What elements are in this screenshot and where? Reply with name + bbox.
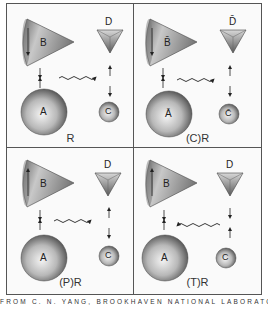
label-c: C [105, 250, 112, 260]
triangle-d-bar [220, 30, 246, 53]
cone-b [22, 19, 74, 66]
cone-b [22, 160, 74, 207]
label-b-bar: B̄ [164, 37, 171, 48]
label-c: C [105, 106, 112, 116]
cone-b-bar [145, 19, 197, 66]
label-c-bar: C̄ [225, 108, 232, 118]
wavy-arrow [59, 77, 95, 80]
figure-caption: FROM C. N. YANG, BROOKHAVEN NATIONAL LAB… [0, 298, 268, 305]
label-b: B [40, 37, 47, 48]
label-d: D [104, 159, 111, 170]
panel-pr: B D A C (P)R [7, 148, 134, 292]
panel-tr: B D A C (T)R [134, 148, 261, 292]
label-d: D [226, 159, 233, 170]
wavy-arrow [178, 224, 220, 227]
panel-cr: B̄ D̄ Ā C̄ (C)R [134, 4, 261, 148]
label-d-bar: D̄ [229, 16, 236, 27]
label-c: C [222, 252, 229, 262]
panel-label: (T)R [134, 276, 261, 288]
label-a: A [40, 106, 47, 117]
triangle-d [95, 173, 121, 196]
wavy-arrow [54, 220, 90, 223]
label-a: A [161, 252, 168, 263]
cone-b [145, 160, 197, 207]
wavy-arrow [177, 79, 213, 82]
label-d: D [105, 16, 112, 27]
panel-label: (P)R [7, 276, 134, 288]
panel-r: B D A C R [7, 4, 134, 148]
label-b: B [163, 178, 170, 189]
panel-label: R [7, 132, 134, 144]
triangle-d [217, 173, 243, 196]
triangle-d [97, 30, 123, 53]
label-b: B [40, 178, 47, 189]
label-a: A [40, 252, 47, 263]
label-a-bar: Ā [165, 108, 172, 119]
panel-label: (C)R [134, 132, 261, 144]
